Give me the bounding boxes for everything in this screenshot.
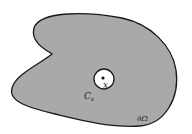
boundary-label: ∂Ω	[137, 114, 148, 123]
region-omega	[12, 14, 177, 127]
circle-label-sub: ε	[91, 95, 94, 102]
domain-diagram: x Cε ∂Ω	[0, 0, 192, 134]
point-x-label: x	[103, 80, 108, 90]
